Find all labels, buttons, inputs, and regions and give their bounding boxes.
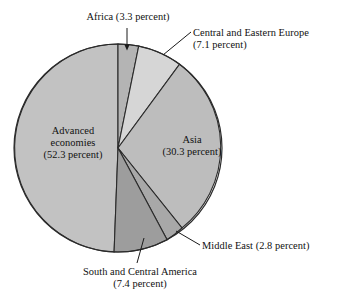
pie-label-south-and-central-america: South and Central America (7.4 percent) <box>58 266 222 290</box>
pie-label-advanced-economies: Advanced economies (52.3 percent) <box>18 125 128 162</box>
pie-label-scamerica-line2: (7.4 percent) <box>58 278 222 290</box>
pie-chart-figure: Africa (3.3 percent) Central and Eastern… <box>0 0 339 302</box>
leader-line-middle-east <box>176 231 200 245</box>
pie-label-asia: Asia (30.3 percent) <box>142 134 242 158</box>
pie-label-africa: Africa (3.3 percent) <box>58 11 198 23</box>
pie-label-advanced-line3: (52.3 percent) <box>18 149 128 161</box>
pie-label-asia-line1: Asia <box>142 134 242 146</box>
leader-line-central-and-eastern-europe <box>163 32 191 55</box>
pie-label-asia-line2: (30.3 percent) <box>142 146 242 158</box>
pie-label-cee-line2: (7.1 percent) <box>193 39 335 51</box>
pie-label-africa-text: Africa (3.3 percent) <box>86 11 169 22</box>
pie-label-middle-east: Middle East (2.8 percent) <box>202 240 338 252</box>
pie-label-cee-line1: Central and Eastern Europe <box>193 27 335 39</box>
pie-label-advanced-line2: economies <box>18 137 128 149</box>
pie-label-advanced-line1: Advanced <box>18 125 128 137</box>
pie-label-central-and-eastern-europe: Central and Eastern Europe (7.1 percent) <box>193 27 335 51</box>
pie-label-middle-east-text: Middle East (2.8 percent) <box>202 240 309 251</box>
pie-label-scamerica-line1: South and Central America <box>58 266 222 278</box>
